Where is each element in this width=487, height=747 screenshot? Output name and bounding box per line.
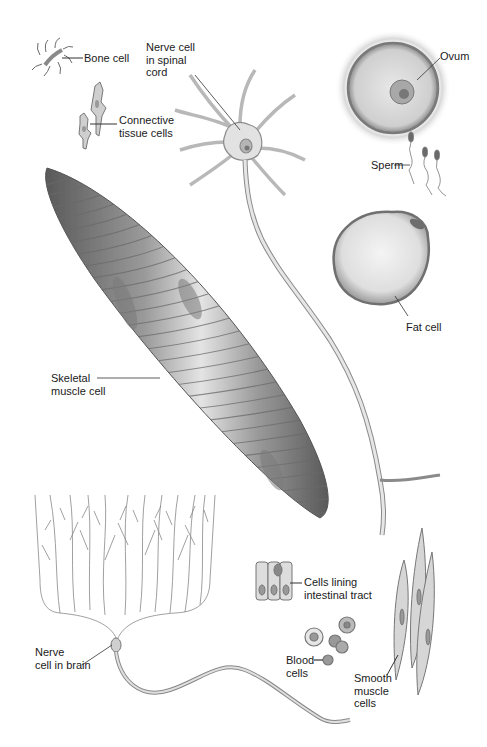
label-sperm: Sperm [371, 159, 403, 172]
label-cells-lining-intestinal-tract: Cells lining intestinal tract [304, 576, 372, 601]
label-smooth-muscle-cells: Smooth muscle cells [354, 672, 392, 710]
ovum-illustration [335, 30, 451, 146]
label-bone-cell: Bone cell [84, 52, 129, 65]
label-connective-tissue-cells: Connective tissue cells [119, 114, 174, 139]
fat-cell-illustration [334, 212, 429, 316]
bone-cell-illustration [32, 38, 83, 76]
connective-tissue-cells-illustration [79, 82, 117, 149]
label-nerve-cell-in-brain: Nerve cell in brain [35, 646, 91, 671]
label-ovum: Ovum [440, 50, 469, 63]
label-skeletal-muscle-cell: Skeletal muscle cell [51, 372, 105, 397]
label-fat-cell: Fat cell [406, 321, 441, 334]
label-blood-cells: Blood cells [286, 654, 314, 679]
brain-nerve-cell-illustration [35, 495, 350, 722]
intestinal-cells-illustration [256, 562, 302, 600]
label-nerve-cell-spinal-cord: Nerve cell in spinal cord [146, 41, 195, 79]
smooth-muscle-cells-illustration [387, 528, 434, 695]
